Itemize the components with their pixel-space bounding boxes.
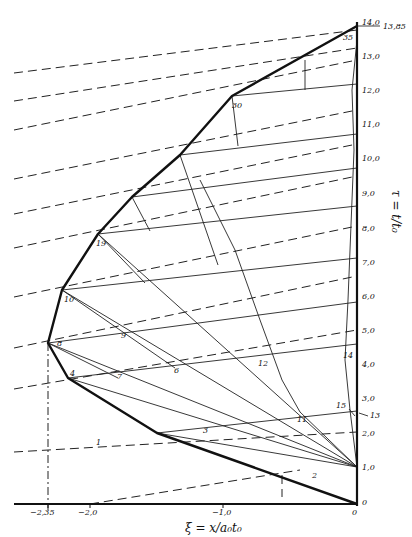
region-label-1: 1 <box>96 438 101 447</box>
x-tick-m10: −1,0 <box>212 508 231 517</box>
point-label-8: 8 <box>57 339 62 348</box>
y-tick-9: 9,0 <box>362 189 375 198</box>
point-label-15: 15 <box>336 401 346 410</box>
x-tick-m235: −2,35 <box>30 508 55 517</box>
point-label-13: 13 <box>370 411 380 420</box>
point-label-11: 11 <box>297 415 307 424</box>
dashed-characteristics <box>14 30 357 504</box>
y-tick-6: 6,0 <box>362 292 375 301</box>
point-label-3: 3 <box>203 426 208 435</box>
region-label-2: 2 <box>311 471 317 480</box>
y-axis-ticks: 0 1,0 2,0 3,0 4,0 5,0 6,0 7,0 8,0 9,0 10… <box>357 18 406 507</box>
point-label-19: 19 <box>96 239 106 248</box>
point-label-10: 10 <box>64 295 74 304</box>
x-tick-m20: −2,0 <box>78 508 97 517</box>
y-tick-1: 1,0 <box>362 463 375 472</box>
y-tick-13: 13,0 <box>362 52 380 61</box>
y-tick-0: 0 <box>362 498 367 507</box>
y-tick-7: 7,0 <box>362 258 375 267</box>
point-label-12: 12 <box>258 359 268 368</box>
y-tick-12: 12,0 <box>362 86 380 95</box>
y-tick-3: 3,0 <box>362 394 375 403</box>
characteristics-diagram: −2,35 −2,0 −1,0 0 0 1,0 2,0 3,0 4,0 5,0 … <box>0 0 412 537</box>
x-tick-zero: 0 <box>352 508 357 517</box>
y-tick-2: 2,0 <box>361 429 375 438</box>
y-tick-11: 11,0 <box>362 120 380 129</box>
point-label-14: 14 <box>343 351 353 360</box>
y-marker-13-85: 13,85 <box>383 22 406 31</box>
y-tick-10: 10,0 <box>362 154 380 163</box>
point-label-4: 4 <box>69 369 75 378</box>
solid-characteristics <box>48 40 357 467</box>
x-axis-label: ξ = x/a₀t₀ <box>185 521 242 535</box>
point-labels: 1 2 3 4 6 7 8 9 10 11 12 13 14 15 19 30 … <box>57 33 380 480</box>
point-label-35: 35 <box>343 33 353 42</box>
point-label-30: 30 <box>232 101 242 110</box>
x-axis-ticks: −2,35 −2,0 −1,0 0 <box>30 504 357 517</box>
point-label-6: 6 <box>174 366 179 375</box>
y-tick-4: 4,0 <box>361 360 375 369</box>
y-axis-label: τ = t/t₀ <box>389 190 403 233</box>
point-label-9: 9 <box>121 331 126 340</box>
y-tick-5: 5,0 <box>362 326 375 335</box>
point-label-7: 7 <box>117 372 123 381</box>
y-tick-8: 8,0 <box>362 224 375 233</box>
